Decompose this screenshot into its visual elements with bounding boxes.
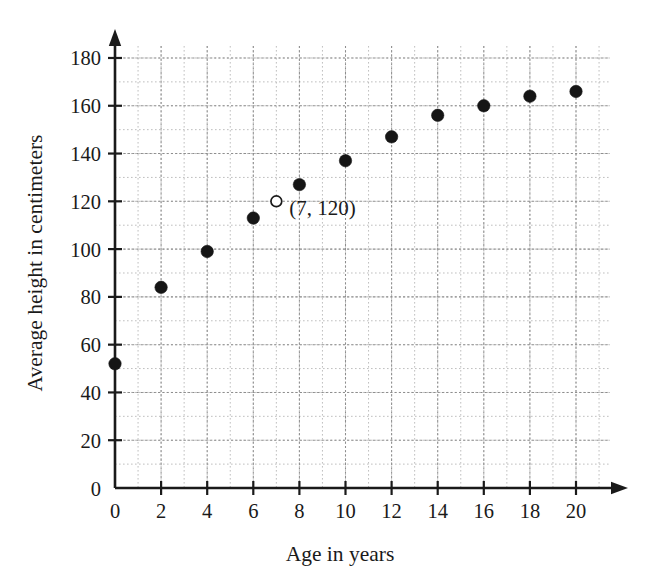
x-axis: [115, 482, 628, 494]
data-point: [339, 155, 351, 167]
y-axis-tick-labels: 020406080100120140160180: [70, 47, 101, 499]
x-axis-arrowhead: [611, 482, 628, 494]
x-tick-label: 8: [294, 500, 304, 522]
data-point: [293, 178, 305, 190]
y-tick-label: 180: [70, 47, 101, 69]
point-annotation-label: (7, 120): [289, 196, 356, 220]
grid-minor-horizontal: [115, 58, 610, 464]
x-tick-label: 18: [520, 500, 541, 522]
y-tick-label: 80: [81, 286, 102, 308]
x-axis-title: Age in years: [286, 542, 395, 566]
scatter-plot: 020406080100120140160180 024681012141618…: [0, 0, 657, 583]
x-tick-label: 10: [335, 500, 356, 522]
x-tick-label: 0: [110, 500, 120, 522]
x-tick-label: 4: [202, 500, 212, 522]
y-axis-arrowhead: [109, 29, 121, 46]
x-tick-label: 6: [248, 500, 258, 522]
data-point: [201, 245, 213, 257]
y-tick-label: 100: [70, 239, 101, 261]
data-point: [385, 131, 397, 143]
data-point: [155, 281, 167, 293]
highlighted-point: [271, 196, 282, 207]
data-point: [109, 358, 121, 370]
y-tick-label: 60: [81, 334, 102, 356]
x-tick-label: 20: [566, 500, 587, 522]
y-tick-label: 120: [70, 191, 101, 213]
y-axis-title: Average height in centimeters: [23, 135, 47, 392]
y-tick-label: 140: [70, 143, 101, 165]
annotation-points: (7, 120): [271, 196, 356, 220]
data-point: [478, 100, 490, 112]
x-tick-label: 14: [427, 500, 448, 522]
y-axis: [109, 29, 121, 488]
x-tick-label: 16: [474, 500, 495, 522]
y-tick-label: 160: [70, 95, 101, 117]
data-point: [247, 212, 259, 224]
y-tick-label: 40: [81, 382, 102, 404]
data-point: [432, 109, 444, 121]
y-tick-label: 20: [81, 430, 102, 452]
x-tick-label: 12: [381, 500, 402, 522]
data-point: [570, 85, 582, 97]
data-point: [524, 90, 536, 102]
chart-page: 020406080100120140160180 024681012141618…: [0, 0, 657, 583]
grid-minor-vertical: [115, 46, 599, 488]
y-tick-label: 0: [91, 478, 101, 500]
x-axis-tick-labels: 02468101214161820: [110, 500, 586, 522]
x-tick-label: 2: [156, 500, 166, 522]
